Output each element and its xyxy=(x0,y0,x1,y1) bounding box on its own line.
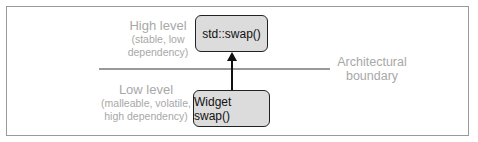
architectural-boundary-line xyxy=(99,68,264,70)
low-level-subtitle-2: high dependency) xyxy=(98,110,194,123)
low-level-label: Low level (malleable, volatile, high dep… xyxy=(98,82,194,123)
widget-swap-label: Widget swap() xyxy=(194,95,269,123)
dependency-arrow-shaft xyxy=(231,60,233,90)
architectural-boundary-line-right xyxy=(264,68,330,70)
architectural-boundary-label: Architectural boundary xyxy=(332,55,412,83)
dependency-arrowhead-icon xyxy=(227,52,237,61)
std-swap-label: std::swap() xyxy=(202,27,261,41)
high-level-label: High level (stable, low dependency) xyxy=(108,18,208,59)
std-swap-box: std::swap() xyxy=(195,15,268,52)
low-level-subtitle-1: (malleable, volatile, xyxy=(98,97,194,110)
high-level-title: High level xyxy=(108,18,208,33)
high-level-subtitle-1: (stable, low xyxy=(108,33,208,46)
high-level-subtitle-2: dependency) xyxy=(108,46,208,59)
boundary-label-line-2: boundary xyxy=(332,69,412,83)
boundary-label-line-1: Architectural xyxy=(332,55,412,69)
low-level-title: Low level xyxy=(98,82,194,97)
widget-swap-box: Widget swap() xyxy=(193,90,270,127)
